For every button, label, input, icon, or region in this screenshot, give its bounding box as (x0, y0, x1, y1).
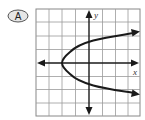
curve-arrow-top-icon (131, 29, 140, 37)
x-axis (37, 60, 139, 67)
y-axis-label: y (93, 10, 98, 20)
coordinate-graph: y x (0, 0, 145, 120)
curve-arrow-bottom-icon (131, 90, 140, 98)
x-axis-label: x (132, 67, 137, 77)
